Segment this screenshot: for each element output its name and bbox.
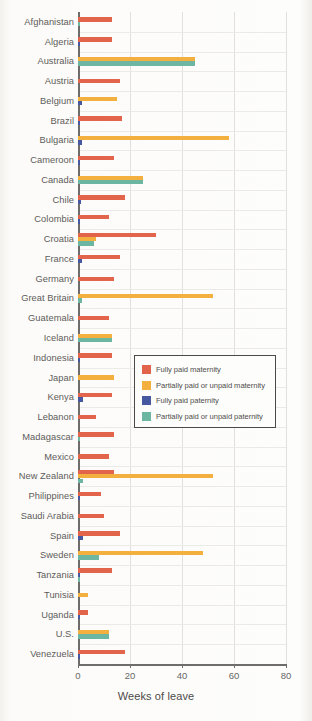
gridline-horizontal	[78, 52, 286, 53]
x-axis-title: Weeks of leave	[0, 690, 312, 702]
bar	[78, 61, 195, 65]
gridline-horizontal	[78, 190, 286, 191]
bar	[78, 241, 94, 245]
gridline-horizontal	[78, 466, 286, 467]
bar	[78, 79, 120, 83]
gridline-horizontal	[78, 289, 286, 290]
category-label: Algeria	[45, 37, 74, 47]
bar	[78, 121, 80, 125]
bar	[78, 316, 109, 320]
bar	[78, 397, 83, 401]
x-axis-tick	[182, 664, 183, 668]
category-label: Japan	[48, 373, 74, 383]
x-axis-tick-label: 0	[75, 670, 80, 681]
gridline-horizontal	[78, 308, 286, 309]
bar	[78, 97, 117, 101]
legend-swatch-icon	[142, 412, 151, 421]
bar	[78, 294, 213, 298]
bar	[78, 101, 82, 105]
x-axis-tick-label: 40	[177, 670, 188, 681]
category-label: Lebanon	[37, 412, 74, 422]
x-axis-tick	[234, 664, 235, 668]
category-label: France	[45, 254, 74, 264]
category-label: Indonesia	[33, 353, 74, 363]
bar	[78, 219, 80, 223]
gridline-horizontal	[78, 526, 286, 527]
bar	[78, 259, 82, 263]
gridline-horizontal	[78, 565, 286, 566]
category-label: Kenya	[47, 392, 74, 402]
gridline-vertical	[286, 12, 287, 664]
gridline-horizontal	[78, 150, 286, 151]
bar	[78, 180, 143, 184]
gridline-horizontal	[78, 447, 286, 448]
bar	[78, 536, 83, 540]
bar	[78, 140, 82, 144]
bar	[78, 479, 83, 483]
bar	[78, 37, 112, 41]
x-axis-tick-label: 80	[281, 670, 292, 681]
bar	[78, 514, 104, 518]
gridline-horizontal	[78, 249, 286, 250]
bar	[78, 474, 213, 478]
gridline-horizontal	[78, 585, 286, 586]
gridline-horizontal	[78, 111, 286, 112]
chart-legend: Fully paid maternityPartially paid or un…	[134, 355, 276, 428]
bar	[78, 298, 82, 302]
category-label: Chile	[53, 195, 74, 205]
chart-page: 020406080 AfghanistanAlgeriaAustraliaAus…	[0, 0, 312, 721]
category-label: Venezuela	[30, 649, 74, 659]
gridline-horizontal	[78, 644, 286, 645]
bar	[78, 492, 101, 496]
legend-item: Fully paid maternity	[142, 362, 270, 378]
x-axis-tick	[130, 664, 131, 668]
legend-label: Fully paid paternity	[156, 396, 219, 405]
gridline-horizontal	[78, 486, 286, 487]
category-label: Germany	[35, 274, 74, 284]
bar	[78, 17, 112, 21]
bar	[78, 634, 109, 638]
category-label: Canada	[41, 175, 74, 185]
bar	[78, 156, 114, 160]
bar	[78, 136, 229, 140]
category-label: Tunisia	[44, 590, 74, 600]
category-label: Bulgaria	[39, 135, 74, 145]
gridline-horizontal	[78, 506, 286, 507]
gridline-horizontal	[78, 91, 286, 92]
gridline-horizontal	[78, 605, 286, 606]
category-label: Australia	[37, 56, 74, 66]
category-label: Cameroon	[30, 155, 74, 165]
category-label: Colombia	[34, 214, 74, 224]
category-label: Austria	[45, 76, 74, 86]
gridline-horizontal	[78, 269, 286, 270]
bar	[78, 116, 122, 120]
category-label: Brazil	[50, 116, 74, 126]
bar	[78, 650, 125, 654]
category-label: Iceland	[44, 333, 74, 343]
bar	[78, 437, 80, 441]
category-label: U.S.	[56, 629, 74, 639]
x-axis-tick-label: 60	[229, 670, 240, 681]
gridline-horizontal	[78, 32, 286, 33]
gridline-horizontal	[78, 624, 286, 625]
category-label: New Zealand	[19, 471, 74, 481]
bar	[78, 593, 88, 597]
x-axis-tick	[78, 664, 79, 668]
legend-swatch-icon	[142, 381, 151, 390]
category-label: Guatemala	[28, 313, 74, 323]
category-label: Great Britain	[21, 293, 74, 303]
gridline-horizontal	[78, 71, 286, 72]
bar	[78, 432, 114, 436]
gridline-horizontal	[78, 348, 286, 349]
legend-label: Partially paid or unpaid maternity	[156, 381, 265, 390]
bar	[78, 215, 109, 219]
bar	[78, 375, 114, 379]
bar	[78, 338, 112, 342]
bar	[78, 277, 114, 281]
legend-item: Partially paid or unpaid maternity	[142, 378, 270, 394]
category-label: Philippines	[28, 491, 74, 501]
bar	[78, 568, 112, 572]
bar	[78, 496, 80, 500]
bar	[78, 42, 80, 46]
gridline-horizontal	[78, 545, 286, 546]
